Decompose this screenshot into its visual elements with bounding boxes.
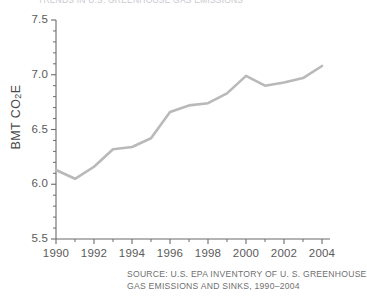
source-caption: SOURCE: U.S. EPA INVENTORY OF U. S. GREE… (127, 268, 339, 293)
source-line-1: SOURCE: U.S. EPA INVENTORY OF U. S. GREE… (127, 268, 339, 280)
source-line-2: GAS EMISSIONS AND SINKS, 1990–2004 (127, 280, 339, 292)
x-tick-label: 2004 (300, 247, 344, 259)
